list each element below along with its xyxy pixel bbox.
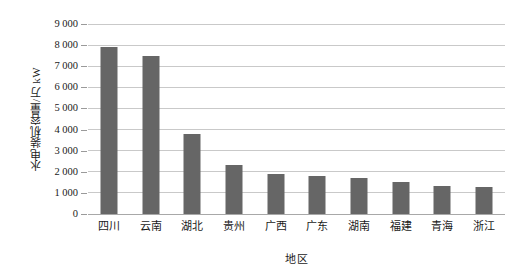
y-tick-label: 7 000 xyxy=(54,61,78,72)
x-axis-title: 地区 xyxy=(88,250,505,266)
tick-mark xyxy=(81,214,87,215)
y-tick-label: 6 000 xyxy=(54,82,78,93)
x-tick-label: 湖北 xyxy=(181,221,203,232)
x-tick-label: 广东 xyxy=(306,221,328,232)
bar xyxy=(225,165,242,214)
y-tick-label: 4 000 xyxy=(54,124,78,135)
tick-mark xyxy=(81,87,87,88)
bar-group: 广东 xyxy=(297,24,339,214)
x-tick-label: 浙江 xyxy=(473,221,495,232)
bar xyxy=(267,174,284,214)
y-tick-label: 8 000 xyxy=(54,40,78,51)
tick-mark xyxy=(81,172,87,173)
y-tick-label: 5 000 xyxy=(54,103,78,114)
tick-mark xyxy=(81,24,87,25)
y-axis-title: 水电装机容量/万 kW xyxy=(26,24,46,214)
y-tick-label: 9 000 xyxy=(54,19,78,30)
bar-group: 贵州 xyxy=(213,24,255,214)
x-tick-label: 贵州 xyxy=(223,221,245,232)
tick-mark xyxy=(81,108,87,109)
y-tick-label: 3 000 xyxy=(54,145,78,156)
y-tick-label: 1 000 xyxy=(54,188,78,199)
tick-mark xyxy=(81,193,87,194)
bar-chart: 水电装机容量/万 kW 01 0002 0003 0004 0005 0006 … xyxy=(0,0,527,280)
bar-group: 四川 xyxy=(88,24,130,214)
bar xyxy=(184,134,201,214)
x-tick-label: 青海 xyxy=(431,221,453,232)
tick-mark xyxy=(81,45,87,46)
bar-group: 云南 xyxy=(130,24,172,214)
bar xyxy=(100,47,117,214)
x-tick-label: 福建 xyxy=(390,221,412,232)
bar-group: 福建 xyxy=(380,24,422,214)
bar xyxy=(476,187,493,214)
x-tick-label: 四川 xyxy=(98,221,120,232)
bar xyxy=(309,176,326,214)
x-tick-label: 湖南 xyxy=(348,221,370,232)
bar-group: 湖北 xyxy=(171,24,213,214)
bars: 四川云南湖北贵州广西广东湖南福建青海浙江 xyxy=(88,24,505,214)
bar xyxy=(434,186,451,215)
x-tick-label: 云南 xyxy=(140,221,162,232)
bar xyxy=(142,56,159,214)
tick-mark xyxy=(81,130,87,131)
x-tick-label: 广西 xyxy=(265,221,287,232)
bar xyxy=(351,178,368,214)
tick-mark xyxy=(81,66,87,67)
y-tick-label: 0 xyxy=(73,209,78,220)
bar-group: 青海 xyxy=(422,24,464,214)
y-tick-label: 2 000 xyxy=(54,167,78,178)
tick-mark xyxy=(81,151,87,152)
bar-group: 广西 xyxy=(255,24,297,214)
bar xyxy=(392,182,409,214)
plot-area: 01 0002 0003 0004 0005 0006 0007 0008 00… xyxy=(88,24,505,214)
bar-group: 浙江 xyxy=(463,24,505,214)
bar-group: 湖南 xyxy=(338,24,380,214)
